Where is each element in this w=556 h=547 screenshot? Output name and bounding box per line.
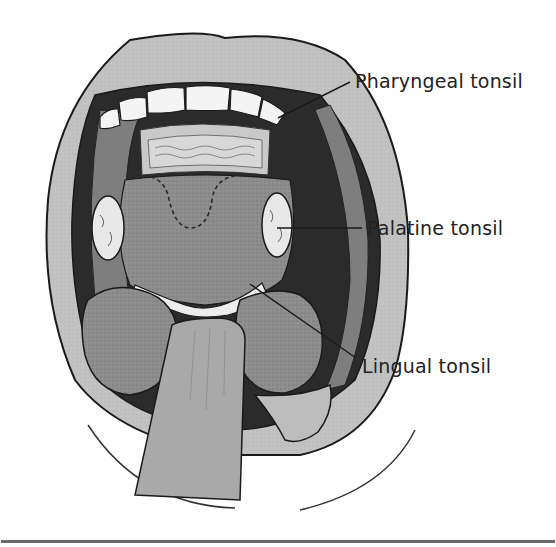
label-palatine-tonsil: Palatine tonsil (367, 217, 503, 239)
tongue-front-right (235, 291, 322, 393)
bottom-rule (1, 540, 555, 543)
pharyngeal-tonsil (148, 135, 262, 168)
palatine-tonsil-left (92, 196, 124, 260)
palatine-tonsil-right (262, 193, 292, 257)
label-pharyngeal-tonsil: Pharyngeal tonsil (355, 70, 523, 92)
label-lingual-tonsil: Lingual tonsil (362, 355, 491, 377)
